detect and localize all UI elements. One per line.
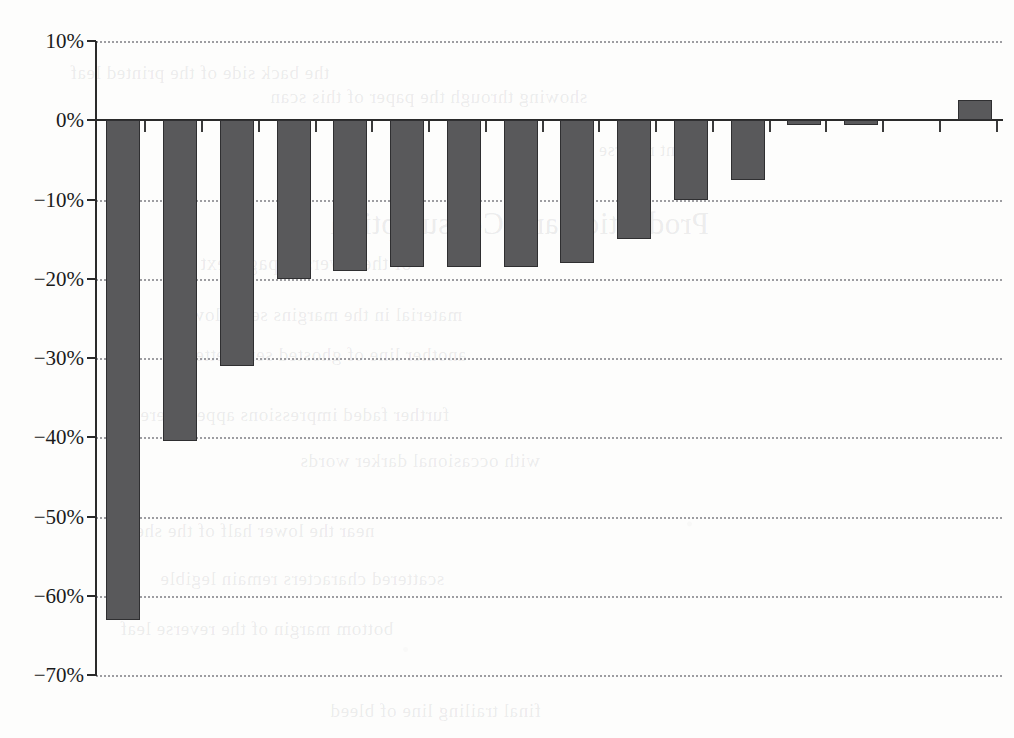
y-axis-tick-label: −10% [10, 187, 84, 212]
y-axis-tick-label: 10% [10, 29, 84, 54]
y-axis-tick [87, 357, 96, 359]
y-axis-tick-label: −30% [10, 346, 84, 371]
bar [617, 120, 651, 239]
gridline [96, 596, 1002, 598]
x-axis-tick [371, 121, 373, 132]
y-axis-tick-label: 0% [10, 108, 84, 133]
x-axis-tick [939, 121, 941, 132]
bar [163, 120, 197, 441]
gridline [96, 41, 1002, 43]
y-axis-tick-label: −70% [10, 663, 84, 688]
bar [958, 100, 992, 120]
y-axis-tick-label: −40% [10, 425, 84, 450]
bar [674, 120, 708, 200]
x-axis-tick [428, 121, 430, 132]
bar [106, 120, 140, 620]
x-axis-tick [996, 121, 998, 132]
y-axis-tick-label: −50% [10, 504, 84, 529]
y-axis-tick [87, 674, 96, 676]
x-axis-tick [598, 121, 600, 132]
bar [277, 120, 311, 279]
x-axis-tick [201, 121, 203, 132]
x-axis-tick [258, 121, 260, 132]
y-axis-tick [87, 199, 96, 201]
bar [844, 120, 878, 125]
y-axis-tick [87, 436, 96, 438]
bar [504, 120, 538, 267]
y-axis-tick [87, 40, 96, 42]
gridline [96, 437, 1002, 439]
gridline [96, 517, 1002, 519]
bar [390, 120, 424, 267]
x-axis-tick [825, 121, 827, 132]
bar-chart: 10%0%−10%−20%−30%−40%−50%−60%−70% [0, 0, 1014, 738]
x-axis-tick [542, 121, 544, 132]
y-axis-tick [87, 278, 96, 280]
x-axis-tick [712, 121, 714, 132]
x-axis-tick [315, 121, 317, 132]
y-axis-tick [87, 595, 96, 597]
x-axis-tick [144, 121, 146, 132]
bar [560, 120, 594, 263]
bar [787, 120, 821, 125]
gridline [96, 675, 1002, 677]
y-axis-tick-label: −20% [10, 266, 84, 291]
bar [333, 120, 367, 271]
bar [447, 120, 481, 267]
x-axis-tick [655, 121, 657, 132]
x-axis-tick [882, 121, 884, 132]
x-axis-tick [485, 121, 487, 132]
y-axis-tick-labels: 10%0%−10%−20%−30%−40%−50%−60%−70% [4, 0, 84, 738]
y-axis-tick [87, 119, 96, 121]
y-axis-tick [87, 516, 96, 518]
bar [731, 120, 765, 180]
x-axis-tick [769, 121, 771, 132]
bar [220, 120, 254, 366]
scanned-page: the back side of the printed leafshowing… [0, 0, 1014, 738]
y-axis-tick-label: −60% [10, 583, 84, 608]
